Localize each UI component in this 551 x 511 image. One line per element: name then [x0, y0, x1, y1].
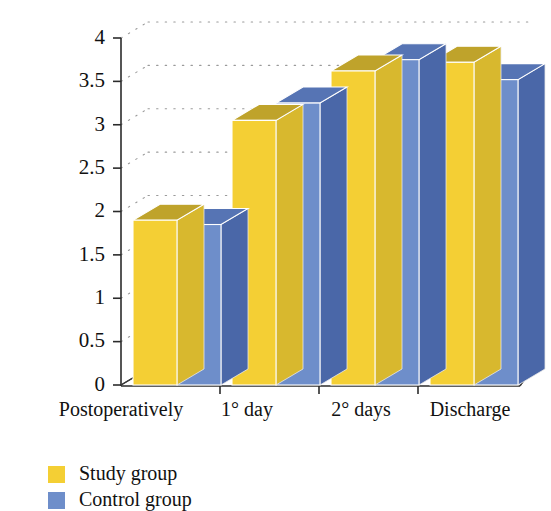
bars-layer: [133, 44, 545, 385]
bar-study-0: [133, 204, 204, 385]
y-tick-label: 1: [95, 285, 106, 309]
legend-swatch: [48, 492, 65, 509]
gridline-depth-connector: [121, 196, 148, 212]
y-tick-label: 3.5: [79, 68, 105, 92]
bar-side-face: [221, 209, 248, 385]
bar-front-face: [133, 220, 177, 385]
x-tick-label: Postoperatively: [59, 398, 183, 421]
y-tick-label: 4: [95, 25, 106, 49]
legend-swatch: [48, 466, 65, 483]
y-tick-label: 2.5: [79, 155, 105, 179]
y-tick-label: 0.5: [79, 328, 105, 352]
chart-canvas: 00.511.522.533.54 Postoperatively1° day2…: [0, 0, 551, 511]
y-tick-label: 1.5: [79, 242, 105, 266]
x-tick-label: 1° day: [221, 398, 273, 421]
bar-side-face: [419, 44, 446, 385]
bar-side-face: [375, 55, 402, 385]
legend: Study groupControl group: [48, 462, 192, 511]
bar-side-face: [518, 64, 545, 385]
bar-side-face: [177, 204, 204, 385]
x-tick-label: 2° days: [331, 398, 391, 421]
y-tick-label: 2: [95, 198, 106, 222]
y-tick-label: 0: [95, 372, 106, 396]
x-tick-labels: Postoperatively1° day2° daysDischarge: [59, 398, 511, 421]
gridline-depth-connector: [121, 65, 148, 81]
gridline-depth-connector: [121, 109, 148, 125]
legend-label: Control group: [79, 488, 192, 511]
x-tick-label: Discharge: [430, 398, 511, 421]
y-tick-label: 3: [95, 112, 106, 136]
gridline-depth-connector: [121, 22, 148, 38]
legend-label: Study group: [79, 462, 177, 485]
y-tick-marks: [113, 38, 121, 385]
gridline-depth-connector: [121, 152, 148, 168]
bar-side-face: [320, 87, 347, 385]
bar-chart: 00.511.522.533.54 Postoperatively1° day2…: [0, 0, 551, 511]
bar-side-face: [474, 46, 501, 385]
x-tick-separators: [220, 386, 418, 394]
bar-side-face: [276, 104, 303, 385]
y-tick-labels: 00.511.522.533.54: [79, 25, 106, 396]
